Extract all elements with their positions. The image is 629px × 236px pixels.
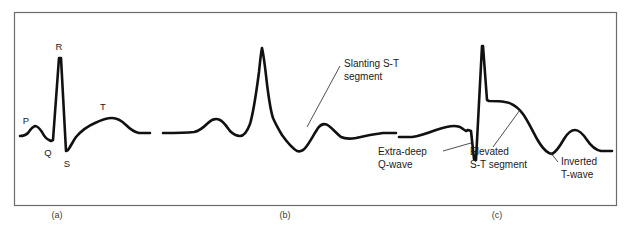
- panel-c: Extra-deep Q-wave Elevated S-T segment I…: [378, 46, 612, 220]
- extra-deep-q-wave-line2: Q-wave: [378, 159, 413, 170]
- elevated-st-segment-leader-line: [493, 110, 520, 147]
- slanting-st-segment-line2: segment: [344, 71, 383, 82]
- r-wave-label: R: [56, 41, 63, 52]
- elevated-st-segment-line1: Elevated: [470, 146, 509, 157]
- panel-a-caption: (a): [52, 210, 63, 220]
- inverted-t-wave-line1: Inverted: [561, 156, 597, 167]
- s-wave-label: S: [64, 158, 70, 169]
- elevated-st-segment-line2: S-T segment: [470, 159, 527, 170]
- panel-b-caption: (b): [280, 210, 291, 220]
- extra-deep-q-wave-line1: Extra-deep: [378, 146, 427, 157]
- ecg-figure-canvas: P Q R S T (a) Slanting S-T segment (b) E…: [0, 0, 629, 236]
- slanting-st-segment-line1: Slanting S-T: [344, 58, 399, 69]
- panel-c-waveform: [399, 46, 612, 160]
- panel-a-waveform: [20, 58, 150, 151]
- p-wave-label: P: [23, 115, 29, 126]
- slanting-st-leader-line: [307, 66, 340, 127]
- panel-b: Slanting S-T segment (b): [163, 48, 399, 220]
- inverted-t-wave-line2: T-wave: [561, 169, 594, 180]
- t-wave-label: T: [100, 101, 106, 112]
- extra-deep-q-wave-leader-line: [443, 143, 471, 151]
- panel-a: P Q R S T (a): [20, 41, 150, 220]
- ecg-figure: P Q R S T (a) Slanting S-T segment (b) E…: [0, 0, 629, 236]
- q-wave-label: Q: [44, 147, 51, 158]
- panel-c-caption: (c): [492, 210, 503, 220]
